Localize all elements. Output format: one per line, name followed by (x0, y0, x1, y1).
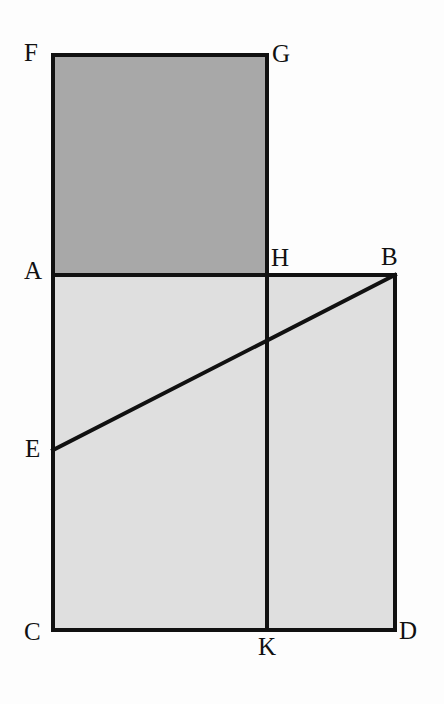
vertex-label-h: H (271, 245, 289, 270)
vertex-label-b: B (381, 244, 398, 269)
geometry-canvas (0, 0, 444, 704)
vertex-label-a: A (24, 258, 42, 283)
vertex-label-c: C (24, 619, 41, 644)
shape-abdc (53, 275, 395, 630)
vertex-label-g: G (272, 41, 290, 66)
vertex-label-k: K (258, 634, 276, 659)
geometry-figure: FGAHBECKD (0, 0, 444, 704)
vertex-label-e: E (25, 436, 40, 461)
vertex-label-f: F (24, 40, 38, 65)
shape-fgha (53, 55, 267, 275)
vertex-label-d: D (399, 618, 417, 643)
shape-fills (53, 55, 395, 630)
